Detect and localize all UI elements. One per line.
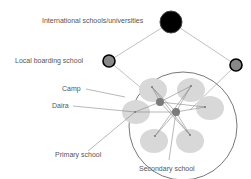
local-boarding-node-left	[103, 55, 115, 67]
label-daira: Daira	[52, 102, 69, 109]
label-secondary: Secondary school	[139, 165, 195, 172]
label-camp: Camp	[62, 85, 81, 92]
education-network-diagram	[0, 0, 251, 179]
label-international: International schools/universities	[42, 17, 143, 24]
international-node	[160, 11, 182, 33]
local-boarding-node-right	[230, 59, 242, 71]
upper-links	[109, 22, 236, 110]
label-local-boarding: Local boarding school	[15, 57, 83, 64]
secondary-school-node-1	[156, 98, 164, 106]
label-primary: Primary school	[55, 151, 101, 158]
